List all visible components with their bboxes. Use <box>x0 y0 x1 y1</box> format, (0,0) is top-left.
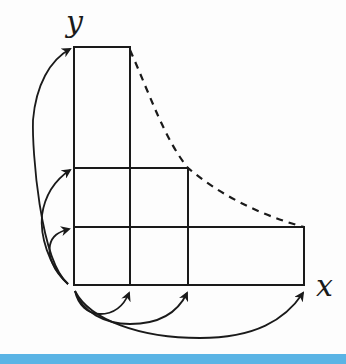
y-axis-label: y <box>66 4 83 39</box>
dashed-curve <box>130 50 304 227</box>
arrow-to-top <box>33 49 70 284</box>
grid-lines <box>74 47 304 285</box>
diagram-canvas <box>0 0 346 364</box>
bottom-color-bar <box>0 354 346 364</box>
arrow-to-fourth <box>75 291 303 338</box>
left-arrows <box>33 49 70 284</box>
arrow-to-third <box>75 291 187 324</box>
tall-column-rect <box>74 47 130 285</box>
x-axis-label: x <box>316 268 333 303</box>
diagram: y x <box>0 0 346 364</box>
bottom-arrows <box>75 291 303 338</box>
